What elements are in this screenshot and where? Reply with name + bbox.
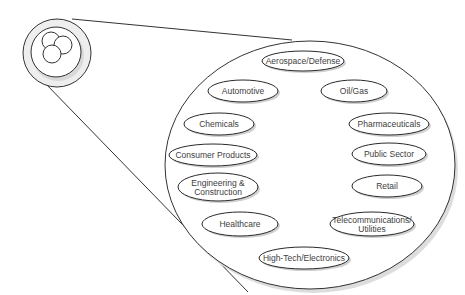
industry-label-line2: Construction — [194, 187, 242, 197]
industry-label: Pharmaceuticals — [358, 119, 421, 129]
industry-item-aerospace-defense: Aerospace/Defense — [262, 51, 346, 73]
industry-label: Chemicals — [199, 119, 239, 129]
industry-label: Healthcare — [219, 219, 260, 229]
industry-item-high-tech-electronics: High-Tech/Electronics — [259, 247, 351, 271]
industry-label: Public Sector — [364, 149, 414, 159]
industry-label: Automotive — [222, 86, 265, 96]
industry-item-consumer-products: Consumer Products — [169, 144, 259, 168]
connector-line-top — [72, 19, 292, 40]
industry-label-line2: Utilities — [358, 224, 385, 234]
industry-label: Consumer Products — [175, 150, 250, 160]
zoom-source-icon — [23, 19, 91, 87]
industries-diagram: Aerospace/DefenseAutomotiveOil/GasChemic… — [0, 0, 465, 295]
industry-label: High-Tech/Electronics — [263, 253, 345, 263]
industry-label: Aerospace/Defense — [266, 56, 341, 66]
industry-label: Oil/Gas — [340, 86, 368, 96]
industry-label: Retail — [376, 181, 398, 191]
